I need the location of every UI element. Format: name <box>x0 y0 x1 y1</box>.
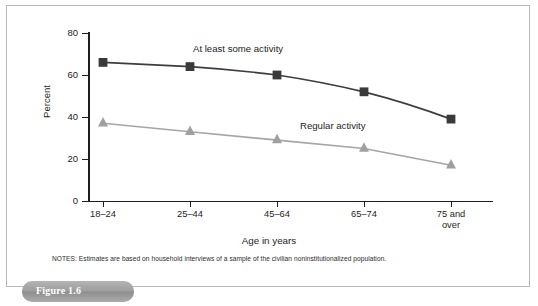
series-annotation-at-least-some-activity: At least some activity <box>193 43 283 54</box>
marker-triangle-3 <box>359 142 369 152</box>
marker-triangle-0 <box>98 117 108 127</box>
marker-square-0 <box>99 58 108 67</box>
marker-triangle-1 <box>185 125 195 134</box>
figure-number-label: Figure 1.6 <box>36 285 81 296</box>
marker-triangle-2 <box>272 134 282 144</box>
marker-square-2 <box>273 71 282 80</box>
marker-square-3 <box>360 87 369 96</box>
figure-number-tab: Figure 1.6 <box>22 281 134 302</box>
marker-square-1 <box>186 62 195 71</box>
marker-square-4 <box>447 115 456 124</box>
series-annotation-regular-activity: Regular activity <box>300 120 366 131</box>
marker-triangle-4 <box>446 159 456 169</box>
figure-notes: NOTES: Estimates are based on household … <box>52 255 492 262</box>
series-line-regular-activity <box>103 123 451 165</box>
figure-page: 80 60 40 20 0 18–24 25–44 45–64 65–74 75… <box>0 0 538 306</box>
x-axis-title: Age in years <box>0 235 538 246</box>
y-axis-title: Percent <box>41 52 52 152</box>
